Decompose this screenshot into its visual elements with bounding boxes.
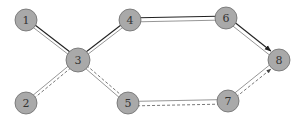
network-diagram: 12345678 [0,0,304,123]
node-label: 8 [276,54,283,67]
edge-7-8-dashed [236,69,271,97]
edge-1-3-solid-gray [32,27,69,55]
edge-7-8-solid-gray [234,64,271,94]
edge-3-4-solid-dark [85,24,122,52]
edge-2-3-solid-gray [32,65,69,96]
edge-3-4-solid-gray [87,27,124,55]
edge-4-6-solid-gray [139,20,217,22]
node-2: 2 [15,92,37,114]
node-6: 6 [215,7,237,29]
node-8: 8 [268,49,290,71]
edge-1-3-solid-dark [34,24,71,52]
node-label: 2 [23,97,30,110]
node-label: 6 [223,12,230,25]
node-label: 7 [225,95,232,108]
node-label: 4 [127,14,134,27]
edge-6-8-solid-dark [234,22,271,51]
edge-5-7-solid-gray [137,100,219,102]
edge-4-6-solid-dark [139,16,217,18]
node-label: 1 [23,14,30,27]
edge-2-3-dashed [34,68,71,99]
edge-3-5-dashed [87,65,123,96]
node-7: 7 [217,90,239,112]
edge-5-7-dashed [137,104,219,106]
edge-3-5-solid-gray [85,68,121,99]
node-4: 4 [119,9,141,31]
node-3: 3 [66,48,90,72]
node-label: 3 [75,54,82,67]
node-1: 1 [15,9,37,31]
edge-6-8-solid-gray [232,25,271,56]
node-5: 5 [117,92,139,114]
nodes-layer: 12345678 [15,7,290,114]
node-label: 5 [125,97,132,110]
